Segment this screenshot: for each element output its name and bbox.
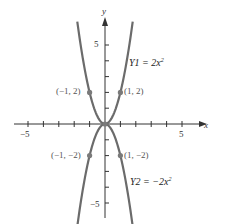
x-tick-label-5: 5 [179,129,184,139]
y-tick-label-neg5: −5 [90,199,100,209]
equation-y1: Y1 = 2x2 [129,57,164,68]
axes [14,17,207,218]
point-label-1-2: (1, 2) [124,86,144,96]
x-axis-label: x [203,120,208,130]
data-point [102,121,107,126]
point-label-1-neg2: (1, −2) [124,150,149,160]
y-axis-label: y [101,6,106,16]
data-point [118,90,123,95]
data-point [118,153,123,158]
data-point [87,90,92,95]
parabola-chart: y x −5 5 5 −5 (−1, 2) (1, 2) (−1, −2) (1… [0,0,225,224]
point-label-neg1-neg2: (−1, −2) [51,150,81,160]
equation-y2: Y2 = −2x2 [130,176,172,187]
data-point [87,153,92,158]
y-axis-arrow-icon [102,17,108,26]
x-tick-label-neg5: −5 [20,129,30,139]
point-label-neg1-2: (−1, 2) [56,86,81,96]
y-tick-label-5: 5 [94,39,99,49]
